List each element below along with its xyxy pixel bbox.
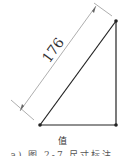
caption-line-1: 值 <box>0 134 124 147</box>
triangle-diagram: 176 <box>0 0 124 156</box>
vertex-top-right <box>114 19 118 23</box>
hypotenuse <box>40 21 116 125</box>
dimension-line <box>20 6 96 111</box>
vertex-bottom-left <box>38 123 42 127</box>
arrow-top-icon <box>92 6 96 13</box>
extension-line-top <box>94 3 112 16</box>
dimension-label: 176 <box>39 34 68 65</box>
caption-line-2: a) 图 2-7 尺寸标注 <box>0 148 124 156</box>
vertex-bottom-right <box>114 123 118 127</box>
extension-line-bottom <box>11 100 34 120</box>
